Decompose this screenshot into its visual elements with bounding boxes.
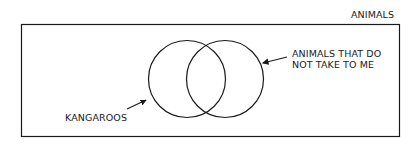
animals-not-take-to-me-arrow	[263, 57, 287, 63]
venn-diagram	[0, 0, 419, 147]
kangaroos-label: KANGAROOS	[65, 112, 127, 123]
animals-not-take-to-me-label-line1: ANIMALS THAT DO	[292, 48, 381, 59]
kangaroos-arrow	[127, 100, 146, 109]
animals-not-take-to-me-label-line2: NOT TAKE TO ME	[292, 59, 374, 70]
universe-label: ANIMALS	[351, 9, 394, 20]
